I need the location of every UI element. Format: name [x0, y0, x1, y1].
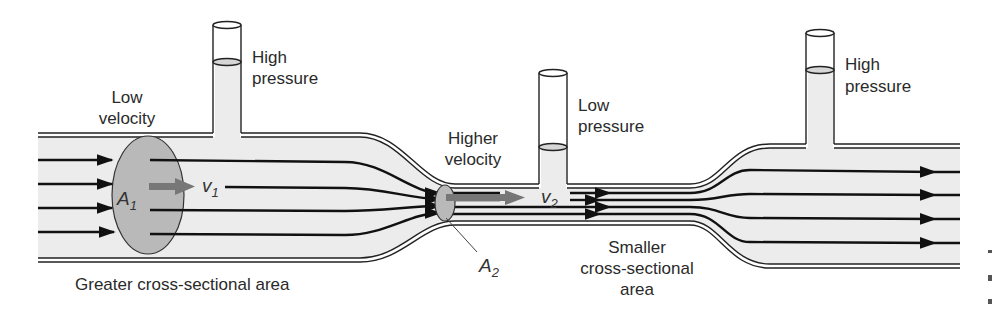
symbol-a2: A2	[478, 255, 500, 280]
cross-section-a2	[435, 185, 455, 221]
label-high-pressure-right-2: pressure	[845, 77, 911, 96]
label-smaller-area-1: Smaller	[608, 238, 666, 257]
label-greater-area: Greater cross-sectional area	[75, 275, 290, 294]
label-low-velocity-1: Low	[111, 88, 143, 107]
label-higher-velocity-1: Higher	[448, 129, 498, 148]
label-low-pressure-1: Low	[578, 96, 610, 115]
label-high-pressure-right-1: High	[845, 55, 880, 74]
label-higher-velocity-2: velocity	[445, 150, 502, 169]
label-low-pressure-2: pressure	[578, 117, 644, 136]
venturi-diagram: A1 v1 v2 A2 Low velocity High pressure H…	[0, 0, 994, 323]
label-smaller-area-2: cross-sectional	[580, 259, 693, 278]
label-high-pressure-left-1: High	[252, 48, 287, 67]
edge-artifacts	[988, 250, 992, 304]
label-smaller-area-3: area	[620, 280, 655, 299]
label-high-pressure-left-2: pressure	[252, 69, 318, 88]
label-low-velocity-2: velocity	[99, 109, 156, 128]
a2-leader-line	[446, 218, 477, 252]
